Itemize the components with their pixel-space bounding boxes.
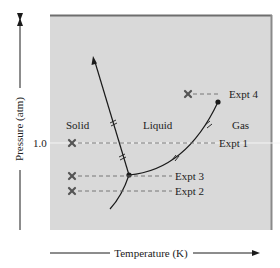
region-solid-label: Solid xyxy=(66,119,90,131)
critical-point xyxy=(215,99,220,104)
y-tick-1atm: 1.0 xyxy=(33,137,47,149)
x-axis-label: Temperature (K) xyxy=(114,247,188,260)
y-axis-label: Pressure (atm) xyxy=(13,97,26,161)
region-gas-label: Gas xyxy=(232,119,249,131)
expt2-label: Expt 2 xyxy=(175,185,204,197)
region-liquid-label: Liquid xyxy=(143,119,173,131)
y-axis-arrow-icon xyxy=(17,18,23,26)
triple-point xyxy=(126,172,131,177)
expt3-label: Expt 3 xyxy=(175,170,205,182)
expt1-label: Expt 1 xyxy=(219,137,248,149)
expt4-label: Expt 4 xyxy=(229,88,259,100)
x-axis-arrow-icon xyxy=(252,250,260,256)
phase-diagram: Pressure (atm) 1.0 Temperature (K) Solid… xyxy=(0,0,280,268)
